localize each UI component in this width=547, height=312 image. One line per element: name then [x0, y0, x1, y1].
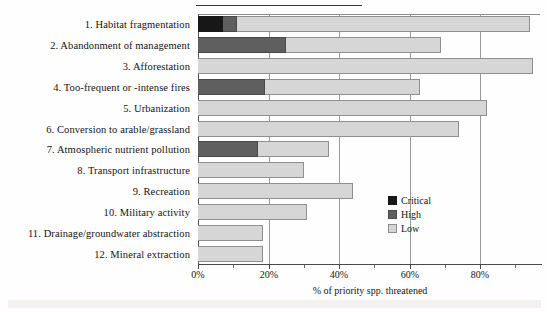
bar-segment-low	[198, 246, 263, 262]
bar-segment-low	[198, 100, 487, 116]
bar-segment-high	[198, 37, 286, 53]
x-minor-tick-10	[233, 265, 234, 268]
legend-swatch-critical	[388, 196, 397, 205]
bar-segment-low	[258, 141, 329, 157]
legend-swatch-high	[388, 210, 397, 219]
bar-segment-high	[198, 141, 258, 157]
x-tick-label: 40%	[330, 269, 348, 280]
plot-area	[198, 14, 540, 264]
category-label: 2. Abandonment of management	[0, 40, 190, 51]
category-label: 4. Too-frequent or -intense fires	[0, 82, 190, 93]
x-tick-label: 0%	[191, 269, 204, 280]
category-label: 8. Transport infrastructure	[0, 165, 190, 176]
x-axis-line	[198, 264, 542, 265]
bar-segment-high	[198, 79, 265, 95]
category-label: 7. Atmospheric nutrient pollution	[0, 144, 190, 155]
bar-segment-low	[198, 162, 304, 178]
category-label: 3. Afforestation	[0, 61, 190, 72]
bar-segment-low	[237, 16, 530, 32]
legend-label: Low	[401, 223, 419, 234]
legend-item: Critical	[388, 194, 458, 207]
figure-container: 1. Habitat fragmentation2. Abandonment o…	[0, 0, 547, 312]
category-label: 10. Military activity	[0, 207, 190, 218]
top-rule-divider	[196, 5, 362, 6]
legend-item: High	[388, 208, 458, 221]
bar-segment-low	[198, 225, 263, 241]
x-minor-tick-50	[374, 265, 375, 268]
chart-legend: CriticalHighLow	[388, 194, 458, 236]
scan-artifact-band	[8, 300, 541, 308]
x-tick-label: 80%	[471, 269, 489, 280]
legend-label: Critical	[401, 195, 431, 206]
x-tick-label: 60%	[401, 269, 419, 280]
legend-swatch-low	[388, 224, 397, 233]
category-label: 11. Drainage/groundwater abstraction	[0, 228, 190, 239]
category-label: 6. Conversion to arable/grassland	[0, 124, 190, 135]
bar-segment-low	[198, 183, 353, 199]
bar-segment-critical	[198, 16, 223, 32]
x-axis-title: % of priority spp. threatened	[198, 285, 542, 296]
legend-label: High	[401, 209, 421, 220]
category-axis-labels: 1. Habitat fragmentation2. Abandonment o…	[0, 14, 194, 264]
bar-segment-low	[286, 37, 441, 53]
bar-segment-low	[198, 204, 307, 220]
category-label: 12. Mineral extraction	[0, 249, 190, 260]
category-label: 1. Habitat fragmentation	[0, 19, 190, 30]
x-tick-label: 20%	[260, 269, 278, 280]
x-minor-tick-90	[515, 265, 516, 268]
x-minor-tick-70	[445, 265, 446, 268]
legend-item: Low	[388, 222, 458, 235]
bar-segment-low	[198, 58, 533, 74]
bar-segment-high	[223, 16, 237, 32]
gridline-80	[480, 14, 481, 264]
category-label: 5. Urbanization	[0, 103, 190, 114]
bar-segment-low	[198, 121, 459, 137]
bar-segment-low	[265, 79, 420, 95]
category-label: 9. Recreation	[0, 186, 190, 197]
plot-top-border	[198, 14, 540, 15]
x-minor-tick-30	[304, 265, 305, 268]
